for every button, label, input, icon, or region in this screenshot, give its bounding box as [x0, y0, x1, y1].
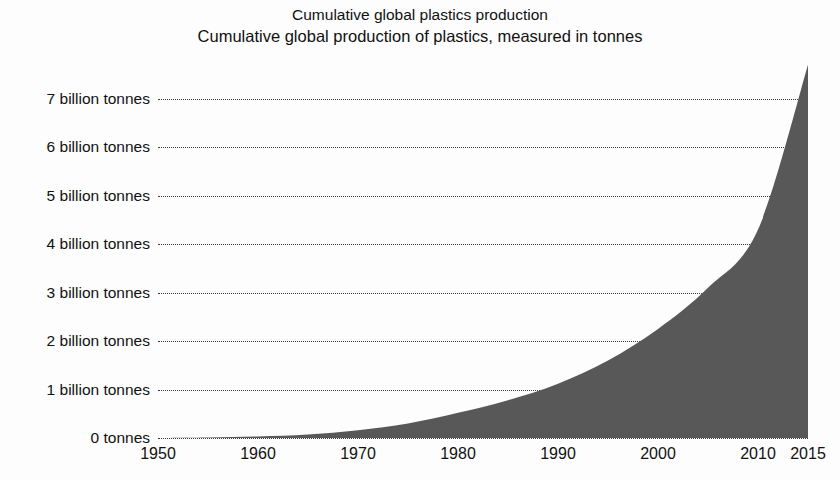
- y-axis-tick-label: 6 billion tonnes: [2, 139, 150, 155]
- area-series: [158, 60, 808, 438]
- x-axis-tick-label: 1970: [340, 444, 376, 464]
- area-path: [158, 65, 808, 438]
- x-axis-tick-label: 2000: [640, 444, 676, 464]
- chart-figure: Cumulative global plastics production Cu…: [0, 0, 840, 480]
- y-axis-tick-label: 7 billion tonnes: [2, 91, 150, 107]
- x-axis-tick-label: 1990: [540, 444, 576, 464]
- x-axis-tick-label: 1950: [140, 444, 176, 464]
- y-axis-tick-label: 2 billion tonnes: [2, 333, 150, 349]
- y-axis-tick-label: 5 billion tonnes: [2, 188, 150, 204]
- chart-title: Cumulative global plastics production: [0, 4, 840, 25]
- x-axis-tick-label: 1960: [240, 444, 276, 464]
- plot-area: [158, 60, 808, 438]
- x-axis-tick-label: 1980: [440, 444, 476, 464]
- gridline: [158, 438, 808, 439]
- x-axis-labels: 19501960197019801990200020102015: [0, 444, 840, 472]
- y-axis-tick-label: 3 billion tonnes: [2, 285, 150, 301]
- y-axis-tick-label: 4 billion tonnes: [2, 236, 150, 252]
- chart-title-block: Cumulative global plastics production Cu…: [0, 4, 840, 47]
- chart-subtitle: Cumulative global production of plastics…: [0, 25, 840, 47]
- x-axis-tick-label: 2015: [790, 444, 826, 464]
- y-axis-labels: 7 billion tonnes6 billion tonnes5 billio…: [0, 60, 150, 438]
- y-axis-tick-label: 1 billion tonnes: [2, 382, 150, 398]
- x-axis-tick-label: 2010: [740, 444, 776, 464]
